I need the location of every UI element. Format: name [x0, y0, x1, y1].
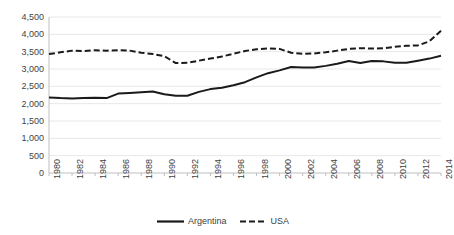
- x-axis-tick-label: 1980: [53, 159, 62, 179]
- x-axis-tick-label: 2004: [330, 159, 339, 179]
- x-axis-tick-label: 1986: [122, 159, 131, 179]
- x-axis-tick-label: 2000: [284, 159, 293, 179]
- x-axis-tick-label: 2008: [376, 159, 385, 179]
- chart-legend: ArgentinaUSA: [0, 214, 446, 228]
- x-axis-tick-label: 1996: [237, 159, 246, 179]
- x-axis-tick-label: 2014: [445, 159, 454, 179]
- x-axis-tick-label: 2006: [353, 159, 362, 179]
- x-axis-tick-label: 1982: [76, 159, 85, 179]
- x-axis-tick-label: 1984: [99, 159, 108, 179]
- legend-label: Argentina: [188, 217, 227, 226]
- x-axis-tick-label: 2010: [399, 159, 408, 179]
- x-axis-tick-label: 1990: [168, 159, 177, 179]
- legend-entry-usa[interactable]: USA: [240, 217, 290, 226]
- x-axis-tick-label: 1994: [214, 159, 223, 179]
- legend-swatch-dashed: [240, 217, 267, 226]
- legend-label: USA: [271, 217, 290, 226]
- x-axis-tick-label: 2012: [422, 159, 431, 179]
- x-axis-tick-label: 1992: [191, 159, 200, 179]
- legend-entry-argentina[interactable]: Argentina: [157, 217, 227, 226]
- x-axis-tick-label: 1988: [145, 159, 154, 179]
- x-axis-tick-label: 1998: [261, 159, 270, 179]
- x-axis-tick-label: 2002: [307, 159, 316, 179]
- legend-swatch-solid: [157, 217, 184, 226]
